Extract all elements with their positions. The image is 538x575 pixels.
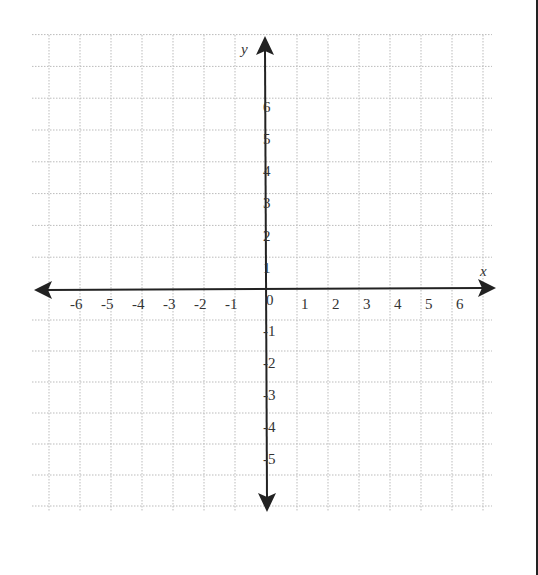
y-tick-label: -1 bbox=[263, 323, 276, 339]
grid-lines bbox=[32, 35, 492, 512]
y-tick-label: -3 bbox=[263, 387, 276, 403]
x-axis-name: x bbox=[479, 263, 487, 279]
x-tick-label: -4 bbox=[132, 296, 145, 312]
x-tick-label: 3 bbox=[363, 296, 371, 312]
y-tick-label: 2 bbox=[263, 228, 271, 244]
origin-label: 0 bbox=[266, 292, 274, 308]
coordinate-plane: -6-5-4-3-2-1123456123456-1-2-3-4-5 x y 0 bbox=[0, 0, 538, 575]
y-tick-label: 3 bbox=[263, 195, 271, 211]
x-tick-label: -2 bbox=[194, 296, 207, 312]
y-tick-label: 6 bbox=[263, 99, 271, 115]
y-tick-label: -5 bbox=[263, 451, 276, 467]
x-tick-label: -6 bbox=[70, 296, 83, 312]
x-tick-label: -1 bbox=[225, 296, 238, 312]
y-axis-name: y bbox=[239, 41, 248, 57]
x-tick-label: -5 bbox=[101, 296, 114, 312]
x-tick-label: -3 bbox=[163, 296, 176, 312]
x-tick-label: 2 bbox=[332, 296, 340, 312]
y-tick-label: 5 bbox=[263, 131, 271, 147]
x-tick-label: 1 bbox=[301, 296, 309, 312]
x-tick-label: 5 bbox=[425, 296, 433, 312]
x-tick-label: 6 bbox=[456, 296, 464, 312]
y-tick-label: 4 bbox=[263, 163, 271, 179]
y-tick-label: -4 bbox=[263, 419, 276, 435]
y-tick-label: -2 bbox=[263, 355, 276, 371]
y-tick-label: 1 bbox=[263, 260, 271, 276]
x-tick-label: 4 bbox=[394, 296, 402, 312]
